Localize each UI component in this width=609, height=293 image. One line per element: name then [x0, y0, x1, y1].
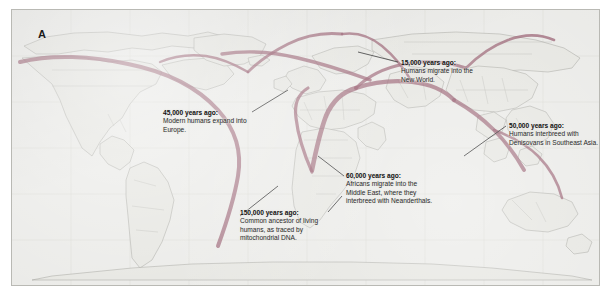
callout-45000-years: 45,000 years ago: Modern humans expand i…	[163, 109, 251, 134]
callout-50000-years: 50,000 years ago: Humans interbreed with…	[509, 122, 600, 147]
callout-body: Humans interbreed with Denisovans in Sou…	[509, 130, 600, 147]
leader-45000	[252, 90, 288, 112]
callout-body: Africans migrate into the Middle East, w…	[346, 180, 434, 205]
migration-map-figure: A 15,000 years ago: Humans migrate into …	[0, 0, 609, 293]
callout-150000-years: 150,000 years ago: Common ancestor of li…	[240, 209, 332, 243]
callout-body: Modern humans expand into Europe.	[163, 117, 251, 134]
map-canvas: A 15,000 years ago: Humans migrate into …	[11, 9, 600, 286]
panel-letter: A	[38, 28, 46, 40]
callout-15000-years: 15,000 years ago: Humans migrate into th…	[401, 59, 485, 84]
callout-60000-years: 60,000 years ago: Africans migrate into …	[346, 172, 434, 206]
map-graphics	[12, 10, 599, 285]
callout-body: Common ancestor of living humans, as tra…	[240, 217, 332, 242]
callout-body: Humans migrate into the New World.	[401, 67, 485, 84]
